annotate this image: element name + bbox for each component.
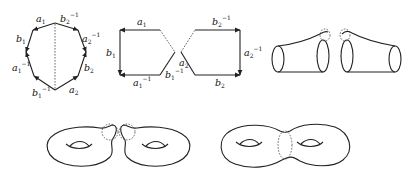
tube-left-end: [272, 46, 284, 72]
torus-left-body: [47, 125, 116, 166]
label-b2-inverse: b2−1: [60, 11, 79, 25]
tube-right-top: [342, 32, 395, 46]
torus-left-hole-upper: [70, 142, 89, 147]
label-a2-inverse: a2−1: [244, 45, 262, 59]
cut-line-left: [160, 30, 175, 52]
label-b1-inverse: b1−1: [165, 67, 184, 81]
cut-line-right: [181, 30, 195, 52]
torus-right-body: [121, 125, 190, 166]
label-b1-inverse: b1−1: [32, 85, 51, 99]
tube-right-dashed-circle: [340, 29, 350, 41]
label-a2: a2: [179, 57, 189, 69]
torus-right-hole-upper: [146, 142, 165, 147]
label-a2-inverse: a2−1: [82, 31, 100, 45]
double-torus-panel: [221, 124, 350, 167]
label-b2: b2: [215, 77, 225, 89]
cylinders-panel: [272, 29, 401, 72]
label-a1: a1: [137, 16, 147, 28]
surface-gluing-diagram: a1 b2−1 b1 a2−1 a1−1 b2 b1−1 a2 a1 b1 a1…: [0, 0, 409, 181]
label-a1-inverse: a1−1: [133, 75, 151, 89]
hole-left-upper: [240, 140, 259, 145]
tube-right-boundary: [341, 40, 353, 72]
label-b2-inverse: b2−1: [212, 14, 231, 28]
tube-left-dashed-circle: [320, 29, 330, 41]
label-b2: b2: [84, 62, 94, 74]
edge-b1: [26, 30, 33, 52]
double-torus-seam: [278, 131, 292, 159]
label-b1: b1: [16, 33, 26, 45]
label-b1: b1: [106, 47, 116, 59]
label-a1-inverse: a1−1: [12, 60, 30, 74]
label-a1: a1: [36, 13, 46, 25]
octagon-panel: a1 b2−1 b1 a2−1 a1−1 b2 b1−1 a2: [12, 11, 100, 99]
double-torus-body: [221, 124, 350, 167]
hole-right-upper: [301, 140, 320, 145]
two-tori-panel: [47, 124, 190, 166]
label-a2: a2: [69, 84, 79, 96]
tube-left-boundary: [317, 40, 329, 72]
split-panel: a1 b1 a1−1 b1−1 a2 b2−1 a2−1 b2: [106, 14, 262, 89]
tube-right-end: [389, 46, 401, 72]
